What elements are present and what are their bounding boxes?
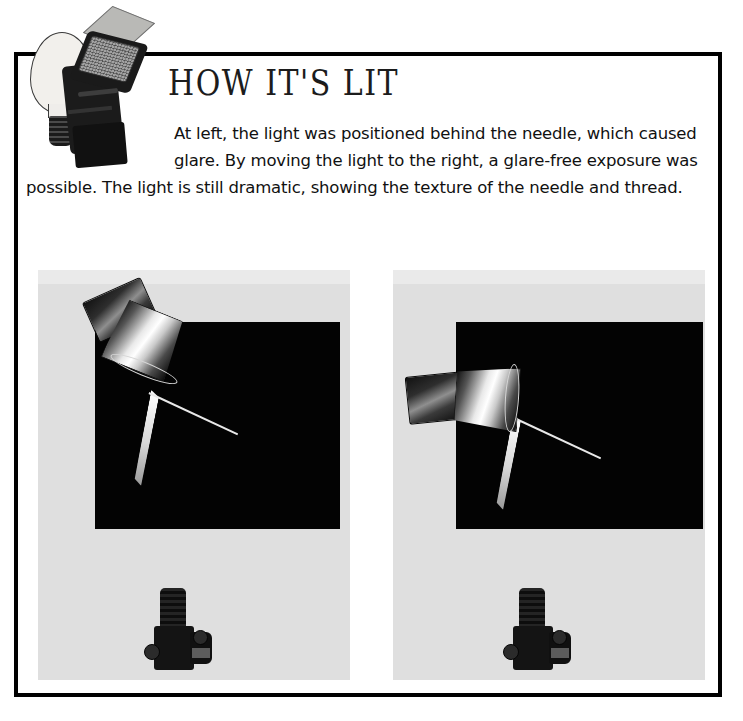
camera-dial2-left: [144, 644, 160, 660]
camera-dial-right: [552, 630, 567, 645]
needle-left: [133, 390, 160, 486]
camera-body-left: [154, 626, 194, 670]
camera-screen-right: [551, 648, 569, 658]
camera-dial2-right: [503, 644, 519, 660]
lighting-diagram-left: [38, 270, 350, 680]
lighting-diagram-right: [393, 270, 705, 680]
camera-screen-left: [192, 648, 210, 658]
panel-top-band: [393, 270, 705, 284]
page-root: HOW IT'S LIT At left, the light was posi…: [0, 0, 743, 721]
page-title: HOW IT'S LIT: [168, 62, 399, 103]
camera-body-right: [513, 626, 553, 670]
thread-right: [512, 416, 601, 459]
lightbulb-flash-icon: [22, 6, 168, 178]
camera-dial-left: [193, 630, 208, 645]
thread-left: [149, 392, 238, 435]
panel-top-band: [38, 270, 350, 284]
flash-foot: [72, 122, 127, 168]
